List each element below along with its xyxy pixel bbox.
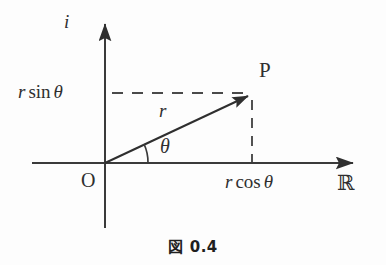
real-axis-label: ℝ bbox=[337, 173, 354, 194]
r-cos-theta-label: rcosθ bbox=[225, 172, 273, 191]
point-p-label: P bbox=[259, 60, 271, 81]
origin-label: O bbox=[81, 170, 95, 190]
diagram-canvas bbox=[0, 0, 386, 265]
radius-label: r bbox=[159, 101, 166, 120]
complex-plane-figure: i ℝ O P r θ rsinθ rcosθ 図0.4 bbox=[0, 0, 386, 265]
r-sin-func: sin bbox=[28, 81, 50, 102]
r-cos-func: cos bbox=[235, 171, 260, 192]
r-sin-var: r bbox=[18, 81, 25, 102]
r-cos-angle: θ bbox=[264, 171, 273, 192]
angle-label: θ bbox=[160, 136, 170, 156]
figure-caption-number: 0.4 bbox=[190, 238, 218, 256]
r-cos-var: r bbox=[225, 171, 232, 192]
radius-vector-line bbox=[105, 96, 248, 163]
angle-arc bbox=[144, 144, 148, 163]
r-sin-theta-label: rsinθ bbox=[18, 82, 63, 101]
figure-caption: 図0.4 bbox=[0, 235, 386, 256]
r-sin-angle: θ bbox=[54, 81, 63, 102]
figure-caption-prefix: 図 bbox=[168, 238, 184, 256]
imaginary-axis-label: i bbox=[64, 12, 69, 31]
